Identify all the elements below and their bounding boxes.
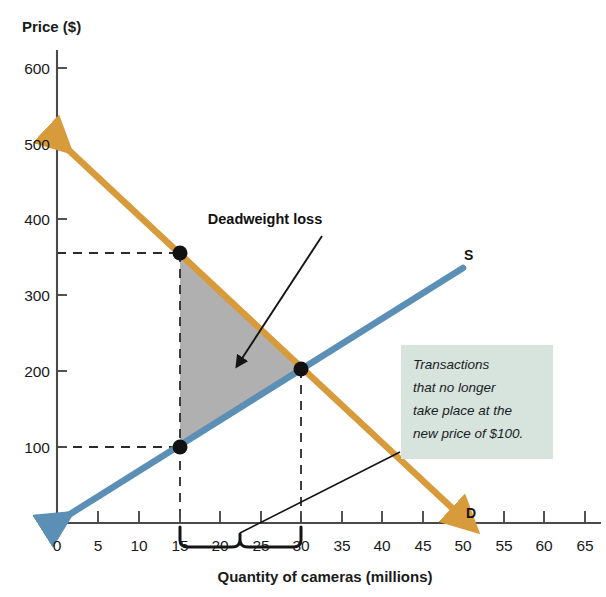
x-tick-label-10: 10: [130, 537, 148, 554]
chart-canvas: Price ($) 600 500 400 300 200 100 0 5 10…: [0, 0, 606, 597]
x-axis-ticks: [98, 511, 585, 523]
y-tick-label-300: 300: [24, 287, 50, 304]
x-tick-label-15: 15: [171, 537, 188, 554]
x-tick-label-45: 45: [414, 537, 431, 554]
x-axis-title: Quantity of cameras (millions): [217, 568, 432, 585]
x-tick-label-20: 20: [211, 537, 229, 554]
x-tick-label-50: 50: [454, 537, 472, 554]
x-tick-label-60: 60: [535, 537, 553, 554]
deadweight-loss-label: Deadweight loss: [208, 211, 322, 227]
callout-line-2: that no longer: [413, 380, 496, 395]
y-tick-label-500: 500: [24, 136, 50, 153]
callout-line-3: take place at the: [413, 403, 512, 418]
y-tick-label-100: 100: [24, 439, 50, 456]
y-tick-label-200: 200: [24, 363, 50, 380]
point-demand-q15: [173, 246, 188, 261]
callout-line-4: new price of $100.: [413, 426, 523, 441]
callout-line-1: Transactions: [413, 357, 490, 372]
y-tick-label-400: 400: [24, 211, 50, 228]
point-equilibrium: [294, 362, 309, 377]
x-tick-label-55: 55: [495, 537, 512, 554]
x-tick-label-65: 65: [576, 537, 593, 554]
x-tick-label-40: 40: [373, 537, 391, 554]
economics-deadweight-loss-chart: Price ($) 600 500 400 300 200 100 0 5 10…: [0, 0, 606, 597]
x-tick-label-0: 0: [53, 537, 62, 554]
demand-curve-label: D: [466, 505, 476, 521]
point-supply-q15: [173, 440, 188, 455]
y-axis-ticks: [57, 68, 67, 447]
supply-curve-label: S: [464, 247, 473, 263]
x-tick-label-5: 5: [94, 537, 103, 554]
y-tick-label-600: 600: [24, 60, 50, 77]
quantity-range-brace: [180, 527, 301, 547]
y-axis-title: Price ($): [22, 18, 81, 35]
x-tick-label-35: 35: [333, 537, 350, 554]
callout-leader-line: [240, 452, 400, 533]
x-tick-label-30: 30: [292, 537, 310, 554]
x-tick-label-25: 25: [252, 537, 269, 554]
demand-curve: [60, 142, 466, 521]
